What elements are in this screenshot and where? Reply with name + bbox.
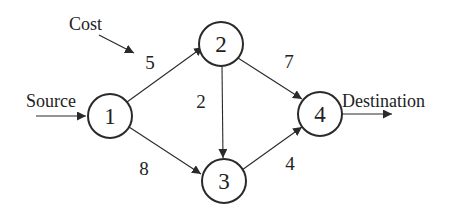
edge-2-3 [222, 66, 223, 158]
edge-1-2-cost: 5 [145, 52, 155, 73]
edge-2-4-cost: 7 [284, 51, 294, 72]
cost-pointer-arrow [99, 35, 134, 53]
edge-2-3-cost: 2 [196, 91, 206, 112]
source-label: Source [26, 91, 76, 111]
node-4-label: 4 [314, 102, 326, 127]
node-3: 3 [202, 159, 246, 203]
graph-svg: 1 2 3 4 5 8 2 7 4 Cost Source Destinatio… [0, 0, 467, 217]
node-1: 1 [88, 94, 132, 138]
edge-1-3-cost: 8 [139, 158, 149, 179]
node-1-label: 1 [104, 104, 116, 129]
edge-1-2 [127, 47, 203, 102]
node-2: 2 [199, 22, 243, 66]
network-diagram: 1 2 3 4 5 8 2 7 4 Cost Source Destinatio… [0, 0, 467, 217]
node-2-label: 2 [215, 32, 227, 57]
destination-label: Destination [342, 91, 425, 111]
cost-annotation: Cost [69, 14, 102, 34]
edge-3-4-cost: 4 [285, 153, 295, 174]
node-3-label: 3 [218, 169, 230, 194]
node-4: 4 [298, 92, 342, 136]
